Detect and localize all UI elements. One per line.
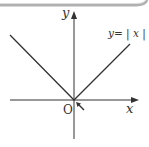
absolute-value-graph: y x O y= | x | bbox=[0, 0, 149, 147]
x-axis-label: x bbox=[126, 101, 134, 116]
abs-curve bbox=[10, 35, 130, 100]
vertex-pointer-arrow-icon bbox=[76, 102, 84, 110]
origin-label: O bbox=[63, 103, 73, 117]
y-axis-label: y bbox=[61, 5, 70, 20]
frame-edge bbox=[0, 0, 147, 5]
y-axis bbox=[71, 11, 77, 139]
y-axis-arrow-icon bbox=[71, 11, 77, 19]
function-label: y= | x | bbox=[107, 27, 146, 41]
